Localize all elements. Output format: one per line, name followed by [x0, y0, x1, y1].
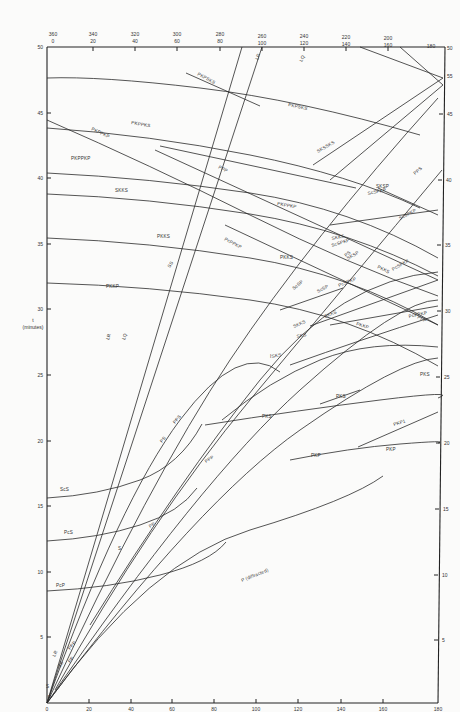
- y-tick-15: 15: [37, 503, 43, 509]
- x-tick-160: 160: [379, 706, 388, 712]
- right-tick-45: 45: [447, 111, 453, 117]
- top-tick-160: 160: [384, 42, 393, 48]
- curve-ppp: [47, 300, 438, 703]
- label-skks-2: SKKS: [324, 309, 338, 319]
- x-tick-20: 20: [86, 706, 92, 712]
- curve-top-right-4: [330, 85, 443, 180]
- curve-s: [47, 363, 280, 703]
- label-lq: LQ: [121, 332, 128, 340]
- right-tick-15: 15: [443, 506, 449, 512]
- top-tick-sec-280: 280: [216, 31, 225, 37]
- y-tick-20: 20: [37, 438, 43, 444]
- curve-pcp: [47, 542, 226, 591]
- curve-lq: [47, 47, 262, 703]
- label-pcs: PcS: [64, 530, 73, 535]
- label-pkp-right: PKP: [386, 447, 396, 452]
- curve-p: [47, 476, 383, 703]
- right-tick-30: 30: [445, 308, 451, 314]
- label-pcppkp: PcPPKP: [224, 236, 243, 249]
- label-scsp: ScSP: [291, 279, 304, 291]
- label-lq-top: LQ: [298, 54, 305, 62]
- label-pkpsks: PKPSKS: [288, 102, 308, 111]
- right-tick-25: 25: [444, 374, 450, 380]
- label-sks: SKS: [271, 352, 282, 359]
- top-tick-120: 120: [300, 40, 309, 46]
- top-tick-0: 0: [52, 38, 55, 44]
- right-tick-35: 35: [445, 242, 451, 248]
- curve-lr: [47, 47, 242, 703]
- label-pcspkp-2: PcSPKP: [338, 276, 357, 288]
- top-tick-80: 80: [217, 38, 223, 44]
- label-pks-short: PKS: [336, 394, 346, 399]
- label-ppp-upper: PPP: [218, 164, 229, 173]
- label-pkppkp-steep: PKPPKP: [91, 126, 111, 139]
- top-tick-40: 40: [132, 38, 138, 44]
- label-pcp: PcP: [56, 583, 65, 588]
- y-tick-35: 35: [37, 241, 43, 247]
- top-tick-180: 180: [427, 43, 436, 49]
- right-tick-55: 55: [447, 73, 453, 79]
- label-pks-right: PKS: [420, 372, 430, 377]
- label-scsp-2: ScSP: [316, 284, 329, 294]
- travel-time-chart: 0 20 40 60 80 100 120 140 160 180 360 0 …: [0, 0, 460, 712]
- curve-scs: [47, 424, 202, 498]
- y-tick-45: 45: [37, 110, 43, 116]
- axes-frame: [47, 47, 445, 703]
- curve-sks: [222, 345, 438, 420]
- label-scs: ScS: [60, 487, 69, 492]
- curve-pkpsks-short: [186, 73, 260, 106]
- curve-pkpsks: [47, 78, 420, 135]
- travel-time-curves: [47, 47, 443, 703]
- top-tick-140: 140: [342, 41, 351, 47]
- label-pkp: PKP: [311, 453, 321, 458]
- y-tick-25: 25: [37, 372, 43, 378]
- top-tick-sec-260: 260: [258, 33, 267, 39]
- top-tick-sec-200: 200: [384, 35, 393, 41]
- label-ps: PS: [159, 435, 167, 443]
- curve-top-right-1: [360, 47, 443, 78]
- curve-ppp-upper: [155, 150, 438, 280]
- label-pkks-3: PKKS: [377, 264, 391, 274]
- y-axis-label: t: [32, 317, 34, 323]
- top-tick-100: 100: [258, 40, 267, 46]
- label-sks-2: SKS: [296, 332, 307, 339]
- label-p-diffracted: P (diffracted): [241, 567, 270, 583]
- right-tick-50: 50: [447, 45, 453, 51]
- label-pkppkp: PKPPKP: [71, 156, 91, 161]
- curve-scsp: [280, 288, 343, 310]
- y-tick-30: 30: [37, 306, 43, 312]
- label-skks-left: SKKS: [115, 188, 128, 193]
- top-tick-sec-340: 340: [89, 31, 98, 37]
- label-pkkp: PKKP: [106, 284, 119, 289]
- label-ss: SS: [167, 260, 175, 268]
- y-tick-50: 50: [37, 44, 43, 50]
- right-tick-10: 10: [442, 572, 448, 578]
- right-tick-5: 5: [442, 637, 445, 643]
- x-tick-120: 120: [294, 706, 303, 712]
- curve-top-right-3: [313, 78, 443, 165]
- x-tick-0: 0: [46, 706, 49, 712]
- label-scspkp: ScSPKP: [367, 187, 386, 196]
- label-i: I: [270, 354, 271, 359]
- top-tick-sec-240: 240: [300, 33, 309, 39]
- label-skks: SKKS: [292, 319, 306, 329]
- label-scspkp-2: ScSPKP: [398, 208, 417, 221]
- y-tick-5: 5: [40, 634, 43, 640]
- label-pkkp-right: PKKP: [356, 321, 370, 330]
- curve-sksks: [160, 146, 356, 188]
- label-s: S: [118, 546, 121, 551]
- label-pkppks: PKPPKS: [131, 120, 151, 128]
- label-pps-upper: PPS: [412, 166, 423, 176]
- top-tick-sec-360: 360: [49, 31, 58, 37]
- curve-ps: [55, 170, 442, 690]
- y-axis-unit: (minutes): [23, 324, 44, 330]
- x-tick-40: 40: [128, 706, 134, 712]
- label-pkks: PKKS: [157, 234, 170, 239]
- label-p-small: P: [48, 695, 51, 700]
- label-pkppkp-2: PKPPKP: [277, 201, 297, 209]
- label-pkpsks-short: PKPSKS: [197, 71, 217, 85]
- right-ticks: 5 10 15 20 25 30 35 40 45 55 50: [434, 45, 453, 643]
- curve-pks: [205, 394, 443, 425]
- bottom-ticks: 0 20 40 60 80 100 120 140 160 180: [46, 699, 443, 712]
- curve-pkks: [47, 238, 438, 325]
